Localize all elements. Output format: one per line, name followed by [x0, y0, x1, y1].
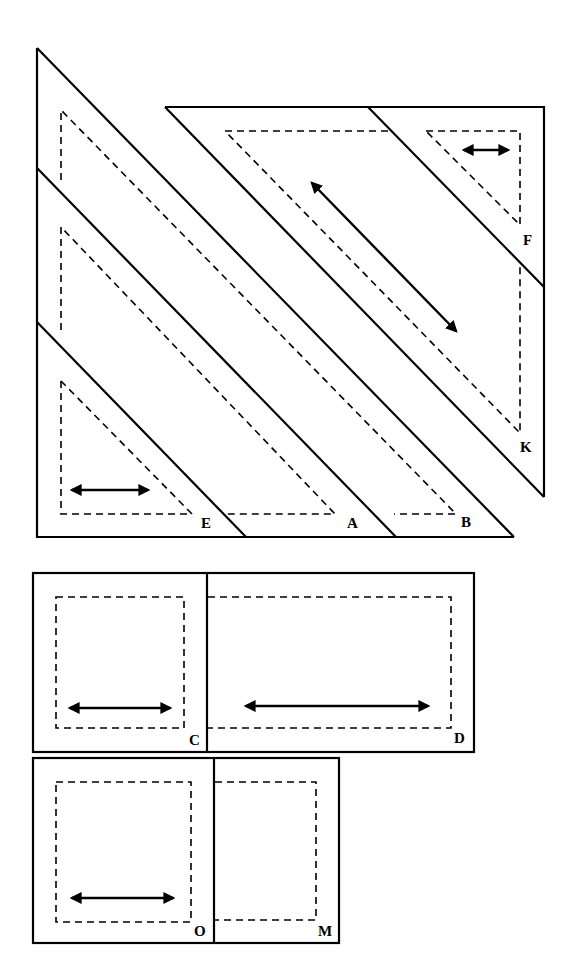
cd-rectangle-group — [33, 573, 474, 752]
piece-label-d: D — [454, 730, 465, 746]
piece-m-seam — [215, 782, 316, 920]
piece-a-seam — [61, 227, 335, 514]
left-triangle-group — [37, 48, 514, 537]
piece-k-seam — [225, 131, 520, 433]
om-outline — [33, 758, 339, 943]
piece-k-grainline-arrow-icon — [312, 183, 456, 331]
piece-f-seam — [426, 131, 520, 225]
piece-b-cut-line — [37, 48, 514, 537]
piece-label-k: K — [520, 439, 532, 455]
piece-f-cut-line — [368, 107, 544, 287]
piece-a-cut-line — [37, 168, 396, 537]
piece-e-cut-line — [37, 322, 246, 537]
piece-k-cut-line — [165, 107, 544, 497]
right-triangle-group — [165, 107, 544, 497]
piece-label-a: A — [347, 515, 358, 531]
cd-outline — [33, 573, 474, 752]
piece-label-m: M — [318, 923, 332, 939]
piece-e-seam — [61, 381, 192, 514]
piece-b-seam — [61, 110, 456, 514]
pattern-diagram: E A B F K C D O M — [0, 0, 577, 980]
piece-d-seam — [208, 597, 451, 728]
piece-label-f: F — [523, 232, 532, 248]
om-rectangle-group — [33, 758, 339, 943]
piece-label-b: B — [461, 514, 471, 530]
piece-o-seam — [56, 782, 191, 922]
piece-label-e: E — [201, 515, 211, 531]
piece-label-c: C — [189, 732, 200, 748]
piece-label-o: O — [194, 923, 206, 939]
